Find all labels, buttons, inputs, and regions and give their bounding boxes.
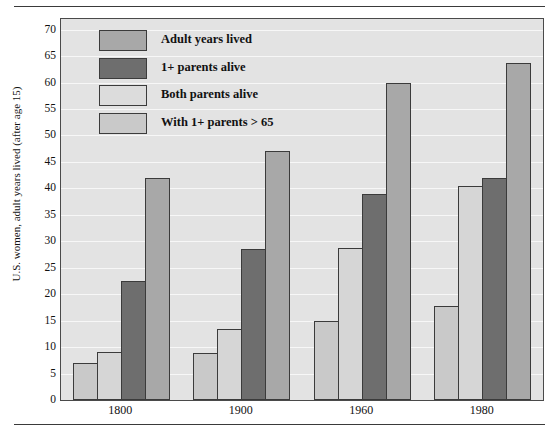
y-axis-tick-label: 0 [4,394,56,406]
bar-1800-adult_years_lived [145,178,170,400]
gridline [61,109,543,110]
x-axis-ticks: 1800190019601980 [60,404,544,424]
legend-swatch [99,113,147,134]
bar-1800-with_parents_over_65 [73,363,98,400]
bar-1960-with_parents_over_65 [314,321,339,400]
y-axis-tick-label: 70 [4,24,56,36]
x-axis-tick-label: 1980 [470,404,494,417]
bar-1800-one_plus_parents_alive [121,281,146,400]
legend-label: With 1+ parents > 65 [161,115,273,130]
y-axis-tick-label: 50 [4,129,56,141]
y-axis-tick-label: 5 [4,368,56,380]
y-axis-tick-label: 25 [4,262,56,274]
bar-1980-adult_years_lived [506,63,531,400]
bar-1980-with_parents_over_65 [434,306,459,400]
legend-swatch [99,30,147,51]
legend-label: Adult years lived [161,32,252,47]
bar-1900-both_parents_alive [217,329,242,400]
y-axis-tick-label: 10 [4,341,56,353]
bar-1900-one_plus_parents_alive [241,249,266,400]
y-axis-tick-label: 65 [4,50,56,62]
legend-swatch [99,85,147,106]
bar-1960-adult_years_lived [386,83,411,401]
x-axis-tick-label: 1960 [349,404,373,417]
x-axis-tick-label: 1900 [229,404,253,417]
bar-1980-one_plus_parents_alive [482,178,507,400]
bar-1800-both_parents_alive [97,352,122,400]
chart-plot-frame: Adult years lived1+ parents aliveBoth pa… [60,18,544,401]
bar-1900-adult_years_lived [265,151,290,400]
y-axis-tick-label: 45 [4,156,56,168]
gridline [61,135,543,136]
y-axis-tick-label: 60 [4,77,56,89]
y-axis-tick-label: 20 [4,288,56,300]
gridline [61,162,543,163]
y-axis-tick-label: 40 [4,182,56,194]
bar-1960-both_parents_alive [338,248,363,400]
top-rule [14,6,545,7]
bar-1980-both_parents_alive [458,186,483,400]
x-axis-tick-label: 1800 [108,404,132,417]
legend-label: Both parents alive [161,87,258,102]
legend-label: 1+ parents alive [161,60,246,75]
y-axis-tick-label: 30 [4,235,56,247]
bottom-rule [14,424,545,425]
legend-swatch [99,58,147,79]
gridline [61,83,543,84]
y-axis-tick-label: 35 [4,209,56,221]
y-axis-tick-label: 15 [4,315,56,327]
bar-1900-with_parents_over_65 [193,353,218,400]
y-axis-tick-label: 55 [4,103,56,115]
bar-1960-one_plus_parents_alive [362,194,387,400]
y-axis-ticks: 0510152025303540455055606570 [0,18,56,401]
